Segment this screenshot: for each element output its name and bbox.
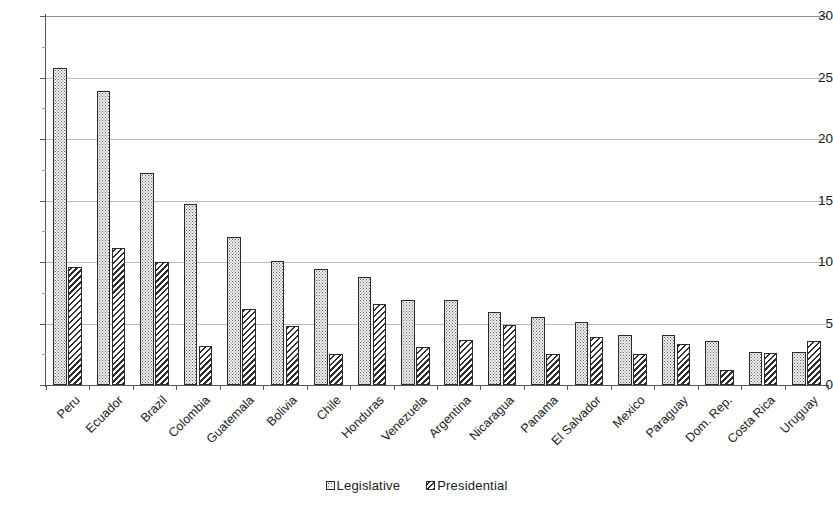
bar-presidential-guatemala xyxy=(242,309,256,385)
bar-chart: 051015202530 PeruEcuadorBrazilColombiaGu… xyxy=(0,0,833,507)
bar-legislative-peru xyxy=(53,68,67,385)
legend-item-presidential: Presidential xyxy=(426,478,507,493)
y-tick-mark xyxy=(40,201,46,202)
x-tick-mark xyxy=(785,385,786,390)
gridline xyxy=(46,78,828,79)
bar-legislative-el-salvador xyxy=(575,322,589,385)
bar-legislative-dom-rep xyxy=(705,341,719,385)
y-minor-tick xyxy=(42,231,46,232)
gridline xyxy=(46,201,828,202)
x-tick-mark xyxy=(263,385,264,390)
bar-presidential-el-salvador xyxy=(590,337,604,385)
y-tick-mark xyxy=(40,262,46,263)
bar-presidential-bolivia xyxy=(286,326,300,385)
y-minor-tick xyxy=(42,293,46,294)
bar-presidential-nicaragua xyxy=(503,325,517,385)
plot-area xyxy=(46,16,828,385)
bar-legislative-costa-rica xyxy=(749,352,763,385)
x-tick-mark xyxy=(89,385,90,390)
bar-legislative-argentina xyxy=(444,300,458,385)
bar-presidential-ecuador xyxy=(112,248,126,385)
bar-legislative-nicaragua xyxy=(488,312,502,385)
x-tick-mark xyxy=(307,385,308,390)
y-tick-label: 5 xyxy=(799,317,833,331)
bar-presidential-costa-rica xyxy=(764,353,778,385)
bar-presidential-colombia xyxy=(199,346,213,385)
y-tick-label: 25 xyxy=(799,71,833,85)
y-tick-mark xyxy=(40,78,46,79)
chart-legend: Legislative Presidential xyxy=(0,478,833,493)
legend-item-legislative: Legislative xyxy=(326,478,401,493)
y-minor-tick xyxy=(42,108,46,109)
y-tick-mark xyxy=(40,16,46,17)
x-tick-mark xyxy=(394,385,395,390)
x-tick-mark xyxy=(654,385,655,390)
bar-presidential-venezuela xyxy=(416,347,430,385)
gridline xyxy=(46,139,828,140)
bar-legislative-honduras xyxy=(358,277,372,385)
x-tick-mark xyxy=(524,385,525,390)
bar-legislative-mexico xyxy=(618,335,632,385)
x-tick-mark xyxy=(133,385,134,390)
bar-legislative-bolivia xyxy=(271,261,285,385)
x-tick-mark xyxy=(176,385,177,390)
bar-legislative-venezuela xyxy=(401,300,415,385)
y-tick-label: 20 xyxy=(799,132,833,146)
legend-swatch-legislative-icon xyxy=(326,481,335,490)
bar-presidential-honduras xyxy=(373,304,387,385)
y-tick-label: 30 xyxy=(799,9,833,23)
x-tick-mark xyxy=(480,385,481,390)
x-tick-mark xyxy=(567,385,568,390)
legend-label-legislative: Legislative xyxy=(337,478,401,493)
gridline xyxy=(46,16,828,17)
y-minor-tick xyxy=(42,170,46,171)
bar-presidential-paraguay xyxy=(677,344,691,385)
y-tick-mark xyxy=(40,324,46,325)
x-tick-mark xyxy=(437,385,438,390)
bar-presidential-brazil xyxy=(155,262,169,385)
bar-presidential-peru xyxy=(68,267,82,385)
legend-swatch-presidential-icon xyxy=(426,481,435,490)
x-tick-mark xyxy=(350,385,351,390)
x-tick-mark xyxy=(741,385,742,390)
bar-presidential-argentina xyxy=(459,340,473,386)
bar-legislative-colombia xyxy=(184,204,198,385)
bar-legislative-paraguay xyxy=(662,335,676,385)
bar-legislative-ecuador xyxy=(97,91,111,385)
y-tick-label: 10 xyxy=(799,255,833,269)
bar-presidential-dom-rep xyxy=(720,370,734,385)
bar-presidential-mexico xyxy=(633,354,647,385)
bar-legislative-panama xyxy=(531,317,545,385)
y-minor-tick xyxy=(42,354,46,355)
bar-legislative-guatemala xyxy=(227,237,241,385)
bar-presidential-panama xyxy=(546,354,560,385)
y-tick-label: 15 xyxy=(799,194,833,208)
x-tick-mark xyxy=(46,385,47,390)
bar-legislative-chile xyxy=(314,269,328,385)
y-tick-mark xyxy=(40,139,46,140)
x-tick-mark xyxy=(698,385,699,390)
bar-presidential-chile xyxy=(329,354,343,385)
legend-label-presidential: Presidential xyxy=(437,478,507,493)
x-tick-mark xyxy=(611,385,612,390)
bar-legislative-brazil xyxy=(140,173,154,385)
x-tick-mark xyxy=(828,385,829,390)
x-tick-mark xyxy=(220,385,221,390)
y-minor-tick xyxy=(42,47,46,48)
